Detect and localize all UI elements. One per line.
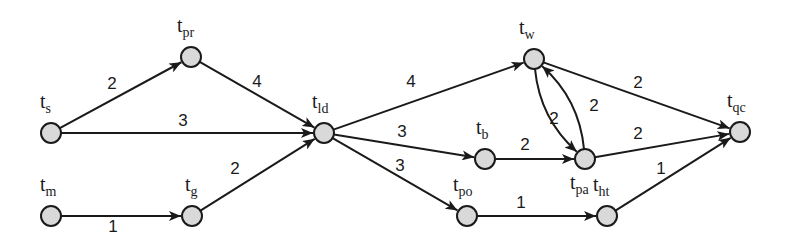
nodes-layer bbox=[41, 47, 750, 226]
edge-weight-tw-to-tqc: 2 bbox=[633, 73, 642, 92]
node-label-ts: ts bbox=[40, 90, 51, 116]
node-label-tpa: tpa bbox=[570, 171, 590, 197]
node-label-tg: tg bbox=[185, 173, 198, 199]
node-tb bbox=[475, 149, 495, 169]
edge-tpa-to-tqc bbox=[595, 134, 729, 157]
node-label-tpo: tpo bbox=[453, 173, 473, 199]
edge-tht-to-tqc bbox=[615, 138, 730, 211]
edge-weight-tld-to-tw: 4 bbox=[406, 72, 415, 91]
node-label-tpr: tpr bbox=[177, 14, 195, 40]
edge-tg-to-tld bbox=[200, 139, 314, 211]
edge-weight-tpa-to-tqc: 2 bbox=[633, 124, 642, 143]
node-tht bbox=[597, 206, 617, 226]
node-label-tm: tm bbox=[40, 173, 57, 199]
node-label-tld: tld bbox=[312, 90, 328, 116]
node-label-tb: tb bbox=[476, 116, 489, 142]
edge-weight-tpr-to-tld: 4 bbox=[252, 72, 261, 91]
node-label-tw: tw bbox=[519, 16, 536, 42]
edge-weight-tht-to-tqc: 1 bbox=[656, 159, 665, 178]
node-label-tqc: tqc bbox=[727, 89, 746, 115]
edge-weight-tpa-to-tw: 2 bbox=[549, 109, 558, 128]
edge-weight-tb-to-tpa: 2 bbox=[520, 135, 529, 154]
node-tg bbox=[182, 206, 202, 226]
node-tw bbox=[524, 49, 544, 69]
node-tpo bbox=[457, 206, 477, 226]
edge-weight-tld-to-tpo: 3 bbox=[395, 156, 404, 175]
edge-weight-tm-to-tg: 1 bbox=[108, 217, 117, 236]
node-label-tht: tht bbox=[593, 173, 610, 199]
node-tld bbox=[314, 123, 334, 143]
edge-ts-to-tpr bbox=[60, 62, 182, 128]
edge-weight-ts-to-tld: 3 bbox=[178, 111, 187, 130]
node-tm bbox=[41, 206, 61, 226]
edge-weight-tpo-to-tht: 1 bbox=[516, 193, 525, 212]
node-ts bbox=[41, 123, 61, 143]
edge-weight-tg-to-tld: 2 bbox=[230, 159, 239, 178]
edge-weight-ts-to-tpr: 2 bbox=[107, 74, 116, 93]
node-tpa bbox=[575, 149, 595, 169]
node-tqc bbox=[730, 122, 750, 142]
graph-svg: 234124332222211 tstprtldtmtgtwtbtpatpoth… bbox=[0, 0, 791, 249]
graph-diagram: 234124332222211 tstprtldtmtgtwtbtpatpoth… bbox=[0, 0, 791, 249]
edges-layer bbox=[60, 62, 731, 216]
node-tpr bbox=[181, 47, 201, 67]
edge-weight-tw-to-tpa: 2 bbox=[589, 96, 598, 115]
labels-layer: tstprtldtmtgtwtbtpatpothttqc bbox=[40, 14, 746, 199]
edge-tld-to-tw bbox=[333, 63, 523, 130]
edge-weight-tld-to-tb: 3 bbox=[397, 122, 406, 141]
